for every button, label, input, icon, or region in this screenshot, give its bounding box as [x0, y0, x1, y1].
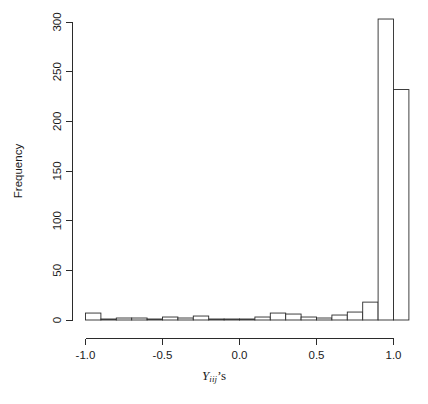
y-axis-ticks: 050100150200250300 [51, 12, 73, 323]
histogram-bar [394, 90, 409, 320]
y-axis-tick-label: 150 [51, 161, 63, 180]
histogram-bar [116, 318, 131, 320]
histogram-bar [86, 313, 101, 320]
histogram-bars [86, 19, 409, 320]
x-axis-tick-label: -0.5 [153, 349, 173, 361]
histogram-bar [347, 312, 362, 320]
histogram-bar [193, 316, 208, 320]
x-axis-tick-label: 1.0 [386, 349, 402, 361]
y-axis-tick-label: 0 [51, 317, 63, 323]
histogram-bar [240, 319, 255, 320]
x-axis-title-suffix: ’s [217, 368, 226, 383]
histogram-plot-area: 050100150200250300 -1.0-0.50.00.51.0 Fre… [0, 0, 428, 404]
histogram-bar [286, 314, 301, 320]
histogram-bar [378, 19, 393, 320]
histogram-bar [332, 315, 347, 320]
histogram-bar [301, 317, 316, 320]
histogram-bar [163, 317, 178, 320]
histogram-bar [147, 319, 162, 320]
x-axis-title: Yiij’s [0, 368, 428, 384]
x-axis-ticks: -1.0-0.50.00.51.0 [76, 339, 402, 362]
histogram-bar [363, 302, 378, 320]
histogram-figure: 050100150200250300 -1.0-0.50.00.51.0 Fre… [0, 0, 428, 404]
histogram-bar [255, 317, 270, 320]
histogram-bar [270, 313, 285, 320]
y-axis-tick-label: 300 [51, 12, 63, 31]
x-axis: -1.0-0.50.00.51.0 [76, 339, 402, 362]
histogram-bar [224, 319, 239, 320]
y-axis-tick-label: 100 [51, 211, 63, 230]
y-axis-tick-label: 50 [51, 264, 63, 277]
histogram-bar [132, 318, 147, 320]
histogram-bar [101, 319, 116, 320]
x-axis-tick-label: -1.0 [76, 349, 96, 361]
x-axis-tick-label: 0.0 [232, 349, 248, 361]
y-axis-title: Frequency [12, 144, 24, 199]
y-axis-tick-label: 200 [51, 112, 63, 131]
histogram-bar [178, 318, 193, 320]
y-axis: 050100150200250300 [51, 12, 73, 323]
histogram-bar [317, 318, 332, 320]
histogram-bar [209, 319, 224, 320]
y-axis-tick-label: 250 [51, 62, 63, 81]
x-axis-tick-label: 0.5 [309, 349, 325, 361]
